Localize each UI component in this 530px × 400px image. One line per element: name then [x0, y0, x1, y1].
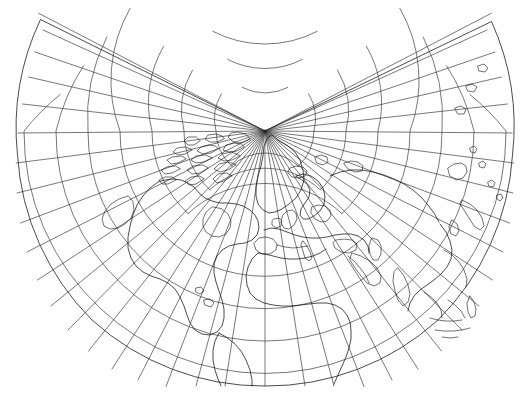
map-projection-svg	[0, 0, 530, 400]
north-pole-point	[263, 129, 266, 132]
map-canvas: Polar Conic Map Projection Conic (polar …	[0, 0, 530, 400]
